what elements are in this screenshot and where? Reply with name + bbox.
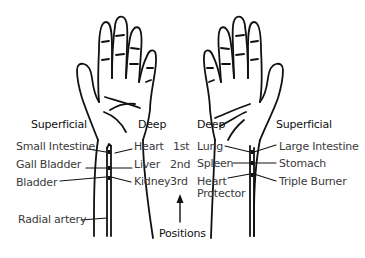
label-heart: Heart <box>134 141 164 153</box>
label-small-intestine: Small Intestine <box>16 141 95 153</box>
positions-label: Positions <box>159 228 206 240</box>
label-liver: Liver <box>134 159 160 171</box>
position-2nd: 2nd <box>170 159 190 171</box>
left-superficial-header: Superficial <box>31 119 87 131</box>
label-kidney: Kidney <box>134 176 170 188</box>
label-triple-burner: Triple Burner <box>279 176 347 188</box>
left-deep-header: Deep <box>138 119 166 131</box>
label-radial-artery: Radial artery <box>18 214 86 226</box>
label-heart-protector-line2: Protector <box>197 188 245 200</box>
up-arrow-icon <box>177 194 184 222</box>
label-lung: Lung <box>197 141 223 153</box>
label-gall-bladder: Gall Bladder <box>16 159 81 171</box>
right-superficial-header: Superficial <box>276 119 332 131</box>
position-1st: 1st <box>173 141 189 153</box>
right-deep-header: Deep <box>197 119 225 131</box>
label-bladder: Bladder <box>16 177 57 189</box>
label-spleen: Spleen <box>197 158 233 170</box>
position-3rd: 3rd <box>170 176 188 188</box>
label-stomach: Stomach <box>279 158 326 170</box>
label-large-intestine: Large Intestine <box>279 141 359 153</box>
